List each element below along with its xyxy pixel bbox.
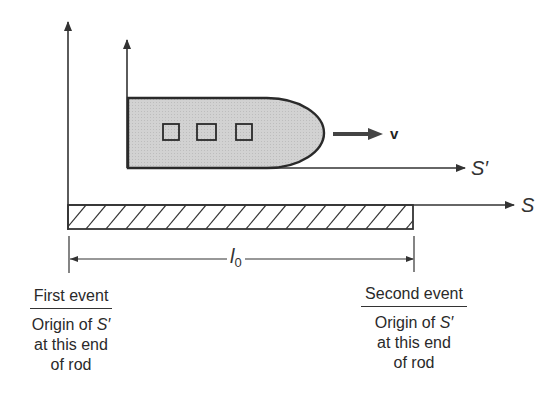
second-event-title: Second event (361, 284, 467, 307)
second-event-block: Second event Origin of S′ at this end of… (346, 284, 482, 373)
s-prime-axis-label: S′ (471, 158, 488, 178)
s-axis-label: S (521, 195, 534, 215)
velocity-arrow-icon (333, 128, 383, 140)
second-event-line1-prefix: Origin of (375, 314, 440, 331)
first-event-line2: at this end (10, 335, 132, 355)
first-event-line1-prefix: Origin of (32, 316, 97, 333)
velocity-label: v (390, 126, 398, 141)
first-event-title: First event (30, 286, 113, 309)
second-event-line2: at this end (346, 333, 482, 353)
first-event-line3: of rod (10, 355, 132, 375)
rocket (128, 98, 324, 168)
first-event-description: Origin of S′ at this end of rod (10, 315, 132, 375)
rod (68, 205, 413, 229)
second-event-description: Origin of S′ at this end of rod (346, 313, 482, 373)
second-event-line3: of rod (346, 353, 482, 373)
length-subscript: 0 (234, 255, 241, 270)
second-event-frame-symbol: S′ (440, 314, 454, 331)
first-event-block: First event Origin of S′ at this end of … (10, 286, 132, 375)
proper-length-label: l0 (227, 246, 245, 269)
first-event-frame-symbol: S′ (97, 316, 111, 333)
dimension-left-arrowhead-icon (70, 256, 78, 262)
